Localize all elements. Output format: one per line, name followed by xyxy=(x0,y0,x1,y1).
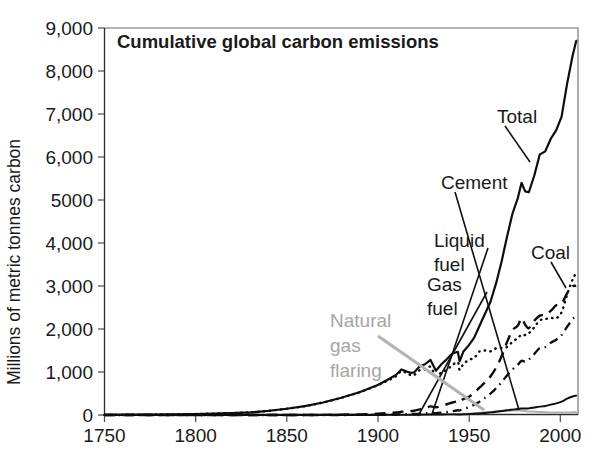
carbon-emissions-chart: 0 1,000 2,000 3,000 4,000 5000 6,000 7,0… xyxy=(0,0,598,464)
annotation-cement: Cement xyxy=(441,172,508,193)
annotation-flaring-line1: Natural xyxy=(330,310,391,331)
y-tick-label-8000: 8,000 xyxy=(45,61,93,82)
y-tick-label-1000: 1,000 xyxy=(45,362,93,383)
y-tick-label-5000: 5000 xyxy=(51,190,93,211)
annotation-flaring-line2: gas xyxy=(330,335,361,356)
annotation-coal: Coal xyxy=(531,242,570,263)
y-tick-marks xyxy=(98,28,104,415)
annotation-total: Total xyxy=(497,106,537,127)
annotation-flaring-line3: flaring xyxy=(330,360,382,381)
x-tick-label-1850: 1850 xyxy=(266,425,308,446)
y-tick-label-4000: 4,000 xyxy=(45,233,93,254)
y-tick-label-7000: 7,000 xyxy=(45,104,93,125)
annotation-gas-fuel-line1: Gas xyxy=(427,274,462,295)
y-tick-label-0: 0 xyxy=(82,405,93,426)
y-tick-label-3000: 3,000 xyxy=(45,276,93,297)
x-tick-label-1950: 1950 xyxy=(448,425,490,446)
y-tick-label-6000: 6,000 xyxy=(45,147,93,168)
annotation-gas-fuel-line2: fuel xyxy=(427,298,458,319)
plot-background xyxy=(104,28,578,415)
y-tick-label-2000: 2,000 xyxy=(45,319,93,340)
annotation-liquid-fuel-line1: Liquid xyxy=(434,230,485,251)
y-axis-title: Millions of metric tonnes carbon xyxy=(4,139,24,385)
x-tick-label-1900: 1900 xyxy=(357,425,399,446)
chart-figure: 0 1,000 2,000 3,000 4,000 5000 6,000 7,0… xyxy=(0,0,598,464)
x-tick-label-1800: 1800 xyxy=(175,425,217,446)
annotation-liquid-fuel-line2: fuel xyxy=(434,254,465,275)
x-tick-label-2000: 2000 xyxy=(539,425,581,446)
chart-title: Cumulative global carbon emissions xyxy=(117,31,439,52)
y-tick-label-9000: 9,000 xyxy=(45,18,93,39)
x-tick-label-1750: 1750 xyxy=(83,425,125,446)
